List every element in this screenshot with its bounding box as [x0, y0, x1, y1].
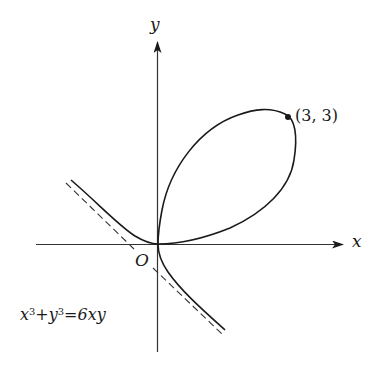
eq-plus: +	[35, 305, 48, 324]
folium-loop	[158, 110, 296, 244]
origin-label: O	[135, 252, 149, 269]
asymptote-line-upper	[66, 183, 134, 249]
eq-y: y	[49, 305, 58, 324]
point-3-3	[285, 114, 291, 120]
folium-branch-right	[158, 244, 225, 330]
asymptote-line-lower	[153, 268, 222, 334]
folium-branch-left	[71, 180, 158, 244]
point-label: (3, 3)	[295, 108, 338, 124]
eq-x: x	[20, 305, 29, 324]
equation-label: x3+y3=6xy	[20, 307, 106, 323]
x-axis-label: x	[352, 233, 362, 250]
eq-equals: =	[64, 305, 77, 324]
eq-rhs: 6xy	[78, 305, 106, 324]
y-axis-label: y	[150, 16, 160, 33]
